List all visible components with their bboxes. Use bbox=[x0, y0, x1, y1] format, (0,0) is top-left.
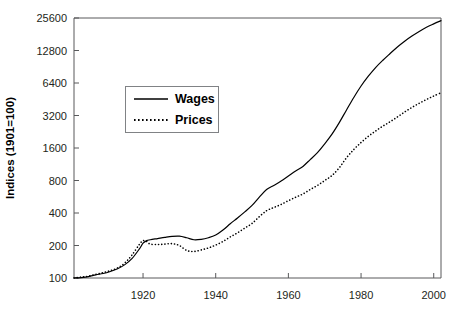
y-tick-label: 3200 bbox=[43, 110, 67, 122]
legend-label-prices: Prices bbox=[175, 113, 213, 127]
y-axis-title: Indices (1901=100) bbox=[4, 97, 16, 199]
y-tick-label: 800 bbox=[49, 175, 67, 187]
indices-log-line-chart: 1002004008001600320064001280025600 19201… bbox=[0, 0, 457, 325]
x-tick-label: 1980 bbox=[349, 289, 373, 301]
x-tick-label: 1940 bbox=[203, 289, 227, 301]
chart-background bbox=[0, 0, 457, 325]
x-tick-label: 1920 bbox=[131, 289, 155, 301]
y-tick-label: 400 bbox=[49, 207, 67, 219]
x-tick-label: 2000 bbox=[421, 289, 445, 301]
y-tick-label: 12800 bbox=[36, 45, 67, 57]
legend-label-wages: Wages bbox=[175, 92, 215, 106]
chart-figure: 1002004008001600320064001280025600 19201… bbox=[0, 0, 457, 325]
y-tick-label: 1600 bbox=[43, 142, 67, 154]
y-tick-label: 25600 bbox=[36, 12, 67, 24]
x-tick-label: 1960 bbox=[276, 289, 300, 301]
y-tick-label: 100 bbox=[49, 272, 67, 284]
y-tick-label: 6400 bbox=[43, 77, 67, 89]
chart-legend: Wages Prices bbox=[126, 87, 219, 133]
y-tick-label: 200 bbox=[49, 240, 67, 252]
